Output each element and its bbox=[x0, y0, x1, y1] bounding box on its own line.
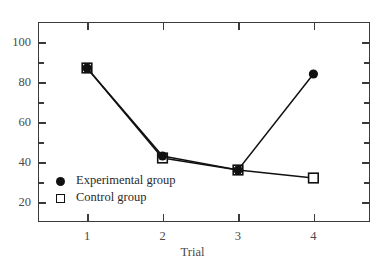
data-point-marker-square bbox=[309, 173, 319, 183]
series-experimental bbox=[82, 63, 318, 174]
chart-data-layer bbox=[0, 0, 385, 269]
data-point-marker-circle bbox=[82, 63, 91, 72]
chart-figure: 204060801001234 Trial Experimental group… bbox=[0, 0, 385, 269]
filled-circle-icon bbox=[54, 174, 70, 188]
series-line bbox=[87, 68, 313, 178]
data-point-marker-circle bbox=[158, 151, 167, 160]
x-axis-title: Trial bbox=[0, 245, 385, 260]
legend-item-control: Control group bbox=[54, 189, 176, 206]
series-control bbox=[82, 63, 318, 183]
open-square-icon bbox=[54, 191, 70, 205]
chart-legend: Experimental group Control group bbox=[54, 172, 176, 206]
legend-label-control: Control group bbox=[76, 190, 146, 205]
series-line bbox=[87, 68, 313, 170]
legend-label-experimental: Experimental group bbox=[76, 173, 176, 188]
legend-item-experimental: Experimental group bbox=[54, 172, 176, 189]
data-point-marker-circle bbox=[233, 165, 242, 174]
data-point-marker-circle bbox=[309, 69, 318, 78]
